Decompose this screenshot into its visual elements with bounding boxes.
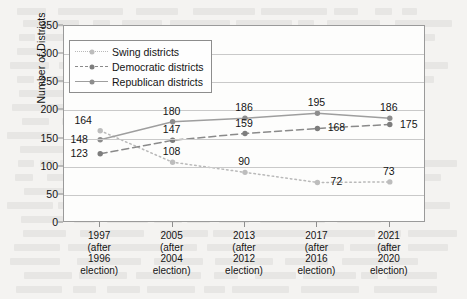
value-label-democratic-2013: 159 — [235, 117, 253, 129]
legend-item-republican: Republican districts — [75, 74, 204, 89]
data-point-democratic-2021 — [387, 122, 392, 127]
gridline-150 — [64, 139, 424, 140]
value-label-republican-2013: 186 — [235, 101, 253, 113]
legend-swatch-republican-icon — [75, 76, 108, 87]
value-label-democratic-2021: 175 — [400, 118, 418, 130]
value-label-swing-2013: 90 — [238, 155, 250, 167]
y-tick-label-150: 150 — [24, 132, 58, 144]
legend-swatch-democratic-icon — [75, 61, 108, 72]
y-tick-label-300: 300 — [24, 47, 58, 59]
data-point-swing-2005 — [170, 160, 175, 165]
value-label-democratic-1997: 123 — [70, 147, 88, 159]
data-point-swing-1997 — [98, 128, 103, 133]
value-label-swing-2021: 73 — [383, 165, 395, 177]
y-tick-mark-150 — [58, 137, 63, 138]
x-tick-label-2021: 2021(after2020election) — [341, 230, 437, 276]
y-tick-label-0: 0 — [24, 216, 58, 228]
legend-label-swing: Swing districts — [112, 46, 179, 58]
y-tick-mark-350 — [58, 25, 63, 26]
x-tick-mark-2021 — [389, 222, 390, 227]
data-point-swing-2013 — [242, 170, 247, 175]
data-point-democratic-1997 — [98, 151, 103, 156]
value-label-swing-1997: 164 — [74, 114, 92, 126]
data-point-swing-2017 — [315, 180, 320, 185]
data-point-swing-2021 — [387, 179, 392, 184]
legend-label-democratic: Democratic districts — [112, 61, 204, 73]
value-label-republican-2017: 195 — [308, 96, 326, 108]
gridline-50 — [64, 195, 424, 196]
y-tick-mark-200 — [58, 109, 63, 110]
x-tick-mark-2017 — [316, 222, 317, 227]
y-tick-label-50: 50 — [24, 188, 58, 200]
data-point-democratic-2017 — [315, 126, 320, 131]
line-chart: Number of Districts 05010015020025030035… — [0, 0, 467, 299]
y-tick-mark-0 — [58, 222, 63, 223]
data-point-republican-2021 — [387, 116, 392, 121]
legend-item-swing: Swing districts — [75, 44, 204, 59]
legend-swatch-swing-icon — [75, 46, 108, 57]
value-label-democratic-2017: 168 — [328, 121, 346, 133]
y-tick-label-100: 100 — [24, 160, 58, 172]
value-label-republican-2021: 186 — [380, 101, 398, 113]
y-tick-mark-250 — [58, 81, 63, 82]
legend-item-democratic: Democratic districts — [75, 59, 204, 74]
y-tick-mark-300 — [58, 53, 63, 54]
value-label-swing-2017: 72 — [331, 175, 343, 187]
y-tick-mark-100 — [58, 165, 63, 166]
value-label-swing-2005: 108 — [163, 145, 181, 157]
x-tick-mark-2005 — [172, 222, 173, 227]
value-label-republican-1997: 148 — [70, 133, 88, 145]
value-label-democratic-2005: 147 — [163, 123, 181, 135]
data-point-democratic-2013 — [242, 131, 247, 136]
y-tick-mark-50 — [58, 193, 63, 194]
x-tick-mark-2013 — [244, 222, 245, 227]
value-label-republican-2005: 180 — [163, 105, 181, 117]
y-tick-label-350: 350 — [24, 19, 58, 31]
y-tick-label-250: 250 — [24, 75, 58, 87]
chart-legend: Swing districts Democratic districts Rep… — [69, 40, 212, 93]
x-tick-mark-1997 — [99, 222, 100, 227]
legend-label-republican: Republican districts — [112, 76, 203, 88]
y-tick-label-200: 200 — [24, 103, 58, 115]
